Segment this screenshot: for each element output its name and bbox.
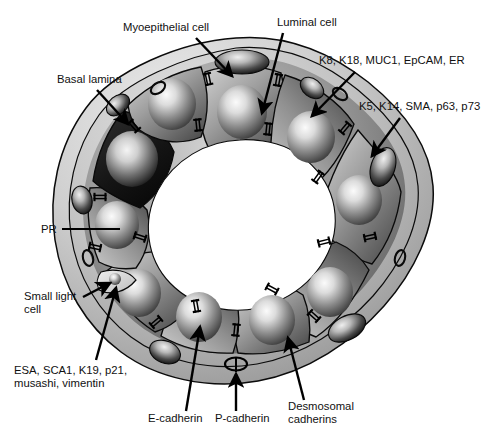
nucleus <box>307 267 353 317</box>
duct-diagram: Myoepithelial cell Luminal cell Basal la… <box>0 0 484 440</box>
label-small-light-cell-line2: cell <box>24 303 41 315</box>
label-luminal-markers: K8, K18, MUC1, EpCAM, ER <box>319 54 465 66</box>
label-luminal-cell: Luminal cell <box>277 16 337 28</box>
nucleus <box>148 78 196 130</box>
label-pr: PR <box>41 223 57 235</box>
nucleus <box>95 201 139 249</box>
label-progenitor-markers-line1: ESA, SCA1, K19, p21, <box>14 364 127 376</box>
label-myoepithelial-markers: K5, K14, SMA, p63, p73 <box>359 100 480 112</box>
label-myoepithelial-cell: Myoepithelial cell <box>123 21 209 33</box>
label-small-light-cell-line1: Small light <box>24 290 77 302</box>
label-desmosomal-cadherins-line2: cadherins <box>288 413 337 425</box>
label-basal-lamina: Basal lamina <box>57 73 122 85</box>
nucleus <box>287 111 335 163</box>
nucleus <box>217 85 267 139</box>
nucleus-pr-positive <box>106 131 158 187</box>
small-light-cell-nucleus <box>109 273 121 285</box>
label-e-cadherin: E-cadherin <box>148 412 203 424</box>
myoepithelial-nucleus <box>215 50 269 74</box>
label-progenitor-markers-line2: musashi, vimentin <box>14 377 104 389</box>
nucleus <box>249 295 295 345</box>
figure-canvas: Myoepithelial cell Luminal cell Basal la… <box>0 0 484 440</box>
label-desmosomal-cadherins-line1: Desmosomal <box>288 400 354 412</box>
label-p-cadherin: P-cadherin <box>215 412 270 424</box>
